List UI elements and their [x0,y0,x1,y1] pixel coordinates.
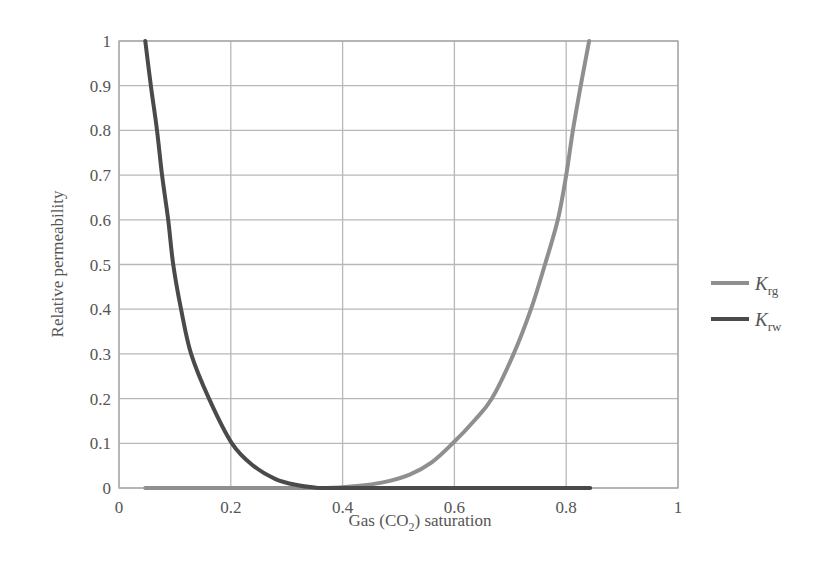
y-tick-label: 0.6 [90,211,111,230]
legend-label-krg: Krg [754,273,779,298]
y-tick-label: 0.3 [90,345,111,364]
y-tick-label: 0.7 [90,166,112,185]
x-axis-label: Gas (CO2) saturation [349,511,492,534]
x-tick-label: 0.2 [220,498,241,517]
y-tick-label: 0.2 [90,390,111,409]
y-tick-label: 0.4 [90,300,112,319]
legend: Krg Krw [711,273,782,334]
legend-item-krw: Krw [711,309,782,334]
y-tick-label: 0.8 [90,121,111,140]
y-axis-label: Relative permeability [48,190,67,337]
relative-permeability-chart: 00.20.40.60.81 00.10.20.30.40.50.60.70.8… [0,0,826,578]
legend-item-krg: Krg [711,273,779,298]
y-axis-ticks: 00.10.20.30.40.50.60.70.80.91 [90,32,112,498]
y-tick-label: 0 [103,479,112,498]
grid [119,41,678,488]
x-tick-label: 0 [115,498,124,517]
x-tick-label: 1 [674,498,683,517]
y-tick-label: 0.9 [90,77,111,96]
y-tick-label: 0.1 [90,434,111,453]
y-tick-label: 1 [103,32,112,51]
legend-label-krw: Krw [754,309,782,334]
x-tick-label: 0.8 [556,498,577,517]
y-tick-label: 0.5 [90,256,111,275]
